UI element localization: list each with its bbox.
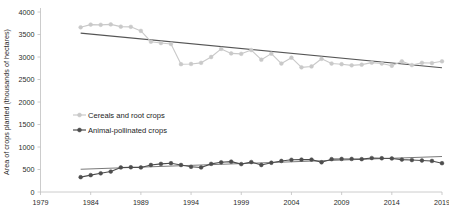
y-tick-label: 2500 <box>19 75 35 84</box>
y-tick-label: 2000 <box>19 98 35 107</box>
series-animal-pollinated <box>79 156 444 179</box>
data-point <box>290 158 294 162</box>
y-tick-label: 1500 <box>19 120 35 129</box>
data-point <box>340 62 344 66</box>
x-tick-label: 1999 <box>233 198 249 207</box>
data-point <box>239 52 243 56</box>
data-point <box>380 62 384 66</box>
data-point <box>269 52 273 56</box>
data-point <box>280 159 284 163</box>
data-point <box>410 63 414 67</box>
data-point <box>290 56 294 60</box>
data-point <box>149 163 153 167</box>
data-point <box>139 29 143 33</box>
data-point <box>159 162 163 166</box>
data-point <box>380 156 384 160</box>
data-point <box>99 171 103 175</box>
data-point <box>129 25 133 29</box>
x-tick-label: 1979 <box>33 198 49 207</box>
data-point <box>300 158 304 162</box>
data-point <box>400 158 404 162</box>
data-point <box>129 165 133 169</box>
data-point <box>440 161 444 165</box>
data-point <box>280 62 284 66</box>
data-point <box>99 23 103 27</box>
data-point <box>269 161 273 165</box>
legend-marker-icon <box>78 113 82 117</box>
data-point <box>310 65 314 69</box>
x-tick-label: 2014 <box>384 198 400 207</box>
line-chart: 0500100015002000250030003500400019791984… <box>0 0 449 222</box>
data-point <box>169 42 173 46</box>
data-point <box>189 62 193 66</box>
x-tick-label: 1994 <box>183 198 199 207</box>
data-point <box>390 157 394 161</box>
data-point <box>229 160 233 164</box>
y-tick-label: 1000 <box>19 143 35 152</box>
data-point <box>159 41 163 45</box>
y-tick-label: 3000 <box>19 53 35 62</box>
y-tick-label: 4000 <box>19 8 35 17</box>
y-tick-label: 500 <box>23 165 35 174</box>
data-point <box>89 173 93 177</box>
data-point <box>360 63 364 67</box>
x-tick-label: 1984 <box>83 198 99 207</box>
data-point <box>209 55 213 59</box>
chart-container: 0500100015002000250030003500400019791984… <box>0 0 449 222</box>
data-point <box>199 61 203 65</box>
data-point <box>310 158 314 162</box>
data-point <box>440 59 444 63</box>
data-point <box>430 159 434 163</box>
data-point <box>189 165 193 169</box>
data-point <box>139 166 143 170</box>
data-point <box>79 175 83 179</box>
data-point <box>420 61 424 65</box>
y-tick-label: 0 <box>31 188 35 197</box>
data-point <box>79 25 83 29</box>
data-point <box>259 163 263 167</box>
trendline <box>81 33 442 68</box>
x-tick-label: 2019 <box>434 198 449 207</box>
data-point <box>330 157 334 161</box>
data-point <box>320 57 324 61</box>
x-tick-label: 2009 <box>334 198 350 207</box>
data-point <box>300 65 304 69</box>
data-point <box>119 25 123 29</box>
data-point <box>229 52 233 56</box>
data-point <box>410 158 414 162</box>
legend-marker-icon <box>78 128 82 132</box>
data-point <box>370 156 374 160</box>
data-point <box>350 63 354 67</box>
data-point <box>249 160 253 164</box>
data-point <box>109 22 113 26</box>
data-point <box>89 23 93 27</box>
data-point <box>430 61 434 65</box>
data-point <box>179 62 183 66</box>
data-point <box>350 157 354 161</box>
data-point <box>119 166 123 170</box>
data-point <box>360 157 364 161</box>
data-point <box>259 58 263 62</box>
data-point <box>340 157 344 161</box>
data-point <box>420 159 424 163</box>
data-point <box>209 162 213 166</box>
data-point <box>179 163 183 167</box>
data-point <box>390 64 394 68</box>
y-axis-title: Area of crops planted (thousands of hect… <box>2 29 11 175</box>
y-tick-label: 3500 <box>19 30 35 39</box>
data-point <box>400 59 404 63</box>
legend: Cereals and root cropsAnimal-pollinated … <box>73 111 167 135</box>
data-point <box>370 61 374 65</box>
legend-label: Animal-pollinated crops <box>88 126 167 135</box>
data-point <box>199 166 203 170</box>
data-point <box>249 48 253 52</box>
data-point <box>169 161 173 165</box>
data-point <box>219 47 223 51</box>
legend-label: Cereals and root crops <box>88 111 165 120</box>
data-line <box>81 158 442 177</box>
series-cereals <box>79 22 444 69</box>
data-point <box>239 162 243 166</box>
data-point <box>109 170 113 174</box>
x-tick-label: 2004 <box>283 198 299 207</box>
x-tick-label: 1989 <box>133 198 149 207</box>
